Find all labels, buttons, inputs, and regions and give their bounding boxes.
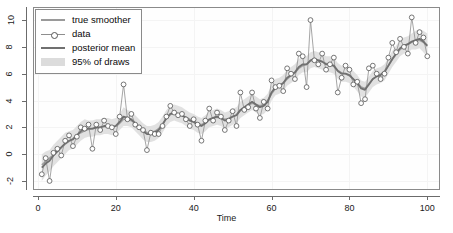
y-tick-label: 10: [6, 15, 16, 25]
y-tick-label: 2: [4, 125, 14, 130]
y-tick-label: 4: [4, 98, 14, 103]
data-point: [343, 63, 348, 68]
legend-item-true-smoother: true smoother: [40, 13, 135, 27]
legend-item-credible-band: 95% of draws: [40, 55, 135, 69]
data-point: [269, 78, 274, 83]
data-point: [265, 106, 270, 111]
legend-label-credible-band: 95% of draws: [72, 56, 130, 68]
x-tick-label: 80: [344, 203, 354, 213]
data-point: [398, 36, 403, 41]
legend-item-data: data: [40, 27, 135, 41]
data-point: [234, 124, 239, 129]
x-tick-label: 60: [267, 203, 277, 213]
data-point: [289, 71, 294, 76]
data-point: [328, 62, 333, 67]
data-point: [324, 67, 329, 72]
data-point: [304, 85, 309, 90]
data-point: [370, 63, 375, 68]
legend-label-data: data: [72, 28, 91, 40]
legend-key-band-icon: [40, 56, 66, 68]
x-axis-title: Time: [0, 213, 453, 223]
data-point: [405, 51, 410, 56]
data-point: [316, 62, 321, 67]
data-point: [215, 110, 220, 115]
x-tick-label: 100: [420, 203, 435, 213]
data-point: [390, 40, 395, 45]
data-point: [281, 89, 286, 94]
data-point: [261, 99, 266, 104]
data-point: [63, 138, 68, 143]
y-tick: [22, 47, 26, 48]
y-tick: [22, 154, 26, 155]
data-point: [199, 138, 204, 143]
data-point: [421, 35, 426, 40]
y-tick: [22, 74, 26, 75]
legend-key-posterior-icon: [40, 42, 66, 54]
data-point: [59, 153, 64, 158]
x-tick: [116, 196, 117, 200]
data-point: [113, 132, 118, 137]
y-tick: [22, 127, 26, 128]
data-point: [195, 122, 200, 127]
y-axis-line: [26, 7, 27, 190]
legend-item-posterior-mean: posterior mean: [40, 41, 135, 55]
data-point: [47, 179, 52, 184]
x-tick: [38, 196, 39, 200]
data-point: [160, 124, 165, 129]
x-tick-label: 0: [35, 203, 40, 213]
data-point: [226, 118, 231, 123]
data-point: [117, 114, 122, 119]
legend-label-posterior-mean: posterior mean: [72, 42, 135, 54]
data-point: [347, 67, 352, 72]
data-point: [250, 90, 255, 95]
data-point: [191, 117, 196, 122]
x-axis-line: [33, 196, 440, 197]
data-point: [67, 133, 72, 138]
data-point: [300, 54, 305, 59]
data-point: [125, 117, 130, 122]
y-tick-label: -2: [5, 177, 15, 185]
data-point: [222, 128, 227, 133]
data-point: [359, 101, 364, 106]
data-point: [109, 125, 114, 130]
data-point: [382, 71, 387, 76]
data-point: [257, 116, 262, 121]
data-point: [238, 90, 243, 95]
data-point: [55, 146, 60, 151]
data-point: [145, 148, 150, 153]
data-point: [331, 55, 336, 60]
data-point: [425, 54, 430, 59]
data-point: [98, 128, 103, 133]
data-point: [413, 40, 418, 45]
data-point: [293, 77, 298, 82]
data-point: [277, 83, 282, 88]
x-tick-label: 20: [111, 203, 121, 213]
x-tick: [427, 196, 428, 200]
data-point: [51, 150, 56, 155]
data-point: [180, 112, 185, 117]
data-point: [394, 50, 399, 55]
data-point: [207, 106, 212, 111]
x-tick: [349, 196, 350, 200]
x-tick: [272, 196, 273, 200]
data-point: [219, 114, 224, 119]
data-point: [363, 97, 368, 102]
legend-key-marker-icon: [40, 28, 66, 40]
x-tick-label: 40: [189, 203, 199, 213]
data-point: [86, 122, 91, 127]
data-point: [320, 51, 325, 56]
data-point: [386, 55, 391, 60]
data-point: [74, 134, 79, 139]
data-point: [156, 132, 161, 137]
data-point: [339, 75, 344, 80]
data-point: [312, 58, 317, 63]
data-point: [129, 112, 134, 117]
data-point: [94, 122, 99, 127]
data-point: [254, 106, 259, 111]
data-point: [183, 117, 188, 122]
data-point: [39, 172, 44, 177]
data-point: [335, 90, 340, 95]
data-point: [141, 128, 146, 133]
legend: true smoother data posterior mean 95% of…: [35, 9, 142, 74]
y-tick-label: 0: [4, 152, 14, 157]
